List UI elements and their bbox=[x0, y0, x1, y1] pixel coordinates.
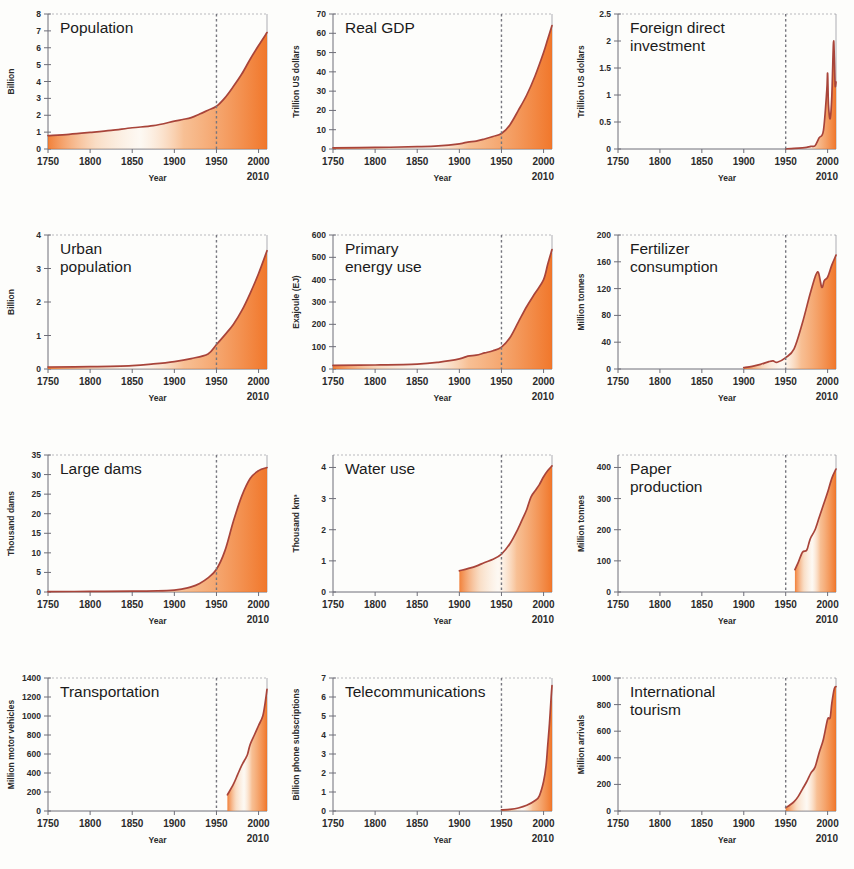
y-axis-label: Thousand km³ bbox=[291, 494, 301, 552]
y-axis-label: Billion phone subscriptions bbox=[291, 688, 301, 800]
y-tick-label: 100 bbox=[312, 342, 326, 352]
x-tick-label: 2000 bbox=[816, 599, 839, 610]
y-tick-label: 3 bbox=[36, 264, 41, 274]
series-area bbox=[744, 255, 836, 369]
x-tick-label: 1900 bbox=[448, 599, 471, 610]
x-tick-label: 1900 bbox=[163, 599, 186, 610]
x-tick-label: 1750 bbox=[607, 818, 630, 829]
y-axis-label: Million tonnes bbox=[576, 495, 586, 552]
x-tick-label: 1850 bbox=[691, 376, 714, 387]
x-axis-label: Year bbox=[434, 835, 453, 845]
panel-title: Paperproduction bbox=[630, 460, 702, 495]
y-tick-label: 2 bbox=[321, 768, 326, 778]
y-axis-label: Billion bbox=[6, 69, 16, 95]
chart-panel-water-use: 012341750180018501900195020002010YearTho… bbox=[285, 427, 570, 650]
y-tick-label: 1.5 bbox=[599, 63, 611, 73]
panel-title: Urbanpopulation bbox=[60, 240, 132, 275]
y-tick-label: 5 bbox=[36, 567, 41, 577]
series-area bbox=[227, 689, 267, 811]
x-tick-label: 1900 bbox=[733, 818, 756, 829]
x-tick-label: 1750 bbox=[37, 376, 60, 387]
y-tick-label: 1400 bbox=[22, 673, 41, 683]
x-tick-label: 1850 bbox=[121, 376, 144, 387]
x-axis-end-label: 2010 bbox=[532, 614, 555, 625]
x-tick-label: 1950 bbox=[775, 376, 798, 387]
x-tick-label: 1750 bbox=[607, 599, 630, 610]
x-axis-end-label: 2010 bbox=[532, 833, 555, 844]
y-tick-label: 3 bbox=[321, 494, 326, 504]
chart-panel-transportation: 0200400600800100012001400175018001850190… bbox=[0, 650, 285, 869]
y-tick-label: 0 bbox=[606, 364, 611, 374]
y-tick-label: 0 bbox=[606, 587, 611, 597]
y-tick-label: 25 bbox=[32, 489, 42, 499]
y-tick-label: 200 bbox=[27, 787, 41, 797]
y-tick-label: 8 bbox=[36, 9, 41, 19]
panel-title: Foreign directinvestment bbox=[630, 19, 725, 54]
x-tick-label: 2000 bbox=[247, 376, 270, 387]
x-axis-end-label: 2010 bbox=[816, 391, 839, 402]
y-tick-label: 200 bbox=[312, 319, 326, 329]
y-tick-label: 10 bbox=[32, 548, 42, 558]
x-tick-label: 1850 bbox=[691, 818, 714, 829]
y-tick-label: 1 bbox=[36, 331, 41, 341]
x-tick-label: 1850 bbox=[121, 818, 144, 829]
series-area bbox=[459, 466, 552, 592]
x-axis-label: Year bbox=[434, 393, 453, 403]
x-tick-label: 1950 bbox=[205, 818, 228, 829]
y-tick-label: 30 bbox=[32, 470, 42, 480]
y-tick-label: 0 bbox=[36, 806, 41, 816]
x-axis-end-label: 2010 bbox=[816, 833, 839, 844]
y-tick-label: 2.5 bbox=[599, 9, 611, 19]
x-tick-label: 1750 bbox=[322, 156, 345, 167]
y-tick-label: 4 bbox=[321, 462, 326, 472]
x-axis-label: Year bbox=[718, 173, 737, 183]
y-tick-label: 300 bbox=[312, 297, 326, 307]
x-tick-label: 1850 bbox=[406, 156, 429, 167]
y-axis-label: Million tonnes bbox=[576, 273, 586, 330]
x-tick-label: 1900 bbox=[733, 376, 756, 387]
y-tick-label: 100 bbox=[597, 556, 611, 566]
x-axis-label: Year bbox=[718, 393, 737, 403]
x-tick-label: 1850 bbox=[406, 818, 429, 829]
chart-panel-international-tourism: 0200400600800100017501800185019001950200… bbox=[570, 650, 854, 869]
series-area bbox=[48, 33, 267, 149]
y-tick-label: 200 bbox=[597, 230, 611, 240]
y-tick-label: 120 bbox=[597, 284, 611, 294]
chart-panel-primary-energy-use: 0100200300400500600175018001850190019502… bbox=[285, 207, 570, 427]
panel-title: Telecommunications bbox=[345, 683, 486, 700]
y-tick-label: 160 bbox=[597, 257, 611, 267]
y-axis-label: Billion bbox=[6, 289, 16, 315]
chart-panel-telecommunications: 012345671750180018501900195020002010Year… bbox=[285, 650, 570, 869]
x-axis-end-label: 2010 bbox=[816, 171, 839, 182]
x-axis-label: Year bbox=[434, 616, 453, 626]
y-tick-label: 3 bbox=[321, 749, 326, 759]
y-axis-label: Thousand dams bbox=[6, 491, 16, 556]
y-tick-label: 4 bbox=[36, 77, 41, 87]
x-tick-label: 1800 bbox=[79, 599, 102, 610]
x-tick-label: 1950 bbox=[490, 156, 513, 167]
x-tick-label: 2000 bbox=[816, 818, 839, 829]
great-acceleration-figure: 0123456781750180018501900195020002010Yea… bbox=[0, 0, 854, 869]
y-tick-label: 200 bbox=[597, 779, 611, 789]
series-area bbox=[333, 26, 552, 149]
x-axis-end-label: 2010 bbox=[247, 171, 270, 182]
y-tick-label: 2 bbox=[321, 525, 326, 535]
x-tick-label: 1950 bbox=[490, 599, 513, 610]
y-tick-label: 0.5 bbox=[599, 117, 611, 127]
x-tick-label: 1800 bbox=[649, 599, 672, 610]
x-tick-label: 1950 bbox=[490, 818, 513, 829]
y-tick-label: 1 bbox=[36, 127, 41, 137]
y-tick-label: 4 bbox=[36, 230, 41, 240]
panel-title: Transportation bbox=[60, 683, 159, 700]
y-tick-label: 7 bbox=[321, 673, 326, 683]
x-tick-label: 1800 bbox=[79, 818, 102, 829]
y-tick-label: 2 bbox=[36, 110, 41, 120]
y-axis-label: Trillion US dollars bbox=[291, 45, 301, 118]
panel-title: Water use bbox=[345, 460, 415, 477]
x-tick-label: 1900 bbox=[163, 156, 186, 167]
y-tick-label: 35 bbox=[32, 450, 42, 460]
series-area bbox=[48, 468, 267, 592]
y-tick-label: 600 bbox=[27, 749, 41, 759]
panel-title: Population bbox=[60, 19, 133, 36]
x-tick-label: 1900 bbox=[163, 376, 186, 387]
